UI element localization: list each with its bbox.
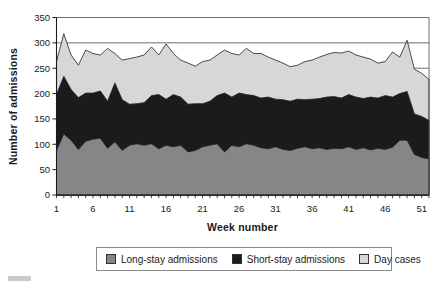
day-cases-swatch: [359, 254, 369, 264]
svg-text:16: 16: [161, 203, 172, 214]
x-tick-labels: 16111621263136414651: [54, 195, 429, 214]
svg-text:100: 100: [34, 139, 50, 150]
svg-text:200: 200: [34, 88, 50, 99]
svg-text:150: 150: [34, 113, 50, 124]
legend-label-short-stay: Short-stay admissions: [247, 254, 345, 265]
svg-text:1: 1: [54, 203, 59, 214]
legend: Long-stay admissions Short-stay admissio…: [96, 247, 392, 271]
svg-text:6: 6: [90, 203, 95, 214]
x-axis-title: Week number: [56, 221, 429, 233]
legend-label-day-cases: Day cases: [374, 254, 421, 265]
svg-text:50: 50: [39, 164, 50, 175]
svg-text:26: 26: [234, 203, 245, 214]
y-axis-title: Number of admissions: [7, 17, 20, 197]
svg-text:51: 51: [416, 203, 427, 214]
svg-text:0: 0: [45, 189, 50, 200]
y-tick-labels: 050100150200250300350: [34, 12, 56, 201]
svg-text:31: 31: [270, 203, 281, 214]
svg-text:46: 46: [380, 203, 391, 214]
svg-text:300: 300: [34, 37, 50, 48]
legend-item-day-cases: Day cases: [359, 254, 421, 265]
legend-item-short-stay: Short-stay admissions: [232, 254, 345, 265]
plot-area: 0501001502002503003501611162126313641465…: [0, 0, 444, 244]
long-stay-swatch: [106, 254, 116, 264]
svg-text:350: 350: [34, 12, 50, 23]
svg-text:11: 11: [125, 203, 135, 214]
svg-text:250: 250: [34, 63, 50, 74]
admissions-stacked-area-chart: 0501001502002503003501611162126313641465…: [0, 0, 444, 288]
svg-text:36: 36: [307, 203, 318, 214]
svg-text:21: 21: [197, 203, 208, 214]
svg-text:41: 41: [343, 203, 354, 214]
legend-label-long-stay: Long-stay admissions: [121, 254, 218, 265]
legend-item-long-stay: Long-stay admissions: [106, 254, 218, 265]
scan-artifact: [8, 276, 31, 281]
short-stay-swatch: [232, 254, 242, 264]
